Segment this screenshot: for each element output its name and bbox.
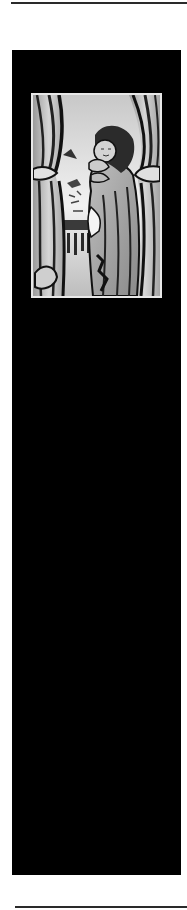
bottom-divider (15, 906, 187, 908)
black-panel (12, 50, 181, 875)
illustration-frame (31, 93, 162, 298)
top-divider (11, 2, 187, 4)
curtain-figure-illustration (33, 95, 160, 296)
